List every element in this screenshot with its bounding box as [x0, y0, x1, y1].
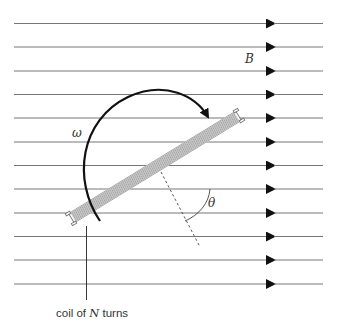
omega-label: ω: [72, 126, 82, 140]
coil-in-field-diagram: B ω θ coil of N turns: [0, 0, 338, 327]
coil-normal-dashed: [161, 172, 200, 247]
theta-label: θ: [208, 196, 216, 210]
field-label-B: B: [244, 52, 254, 66]
theta-angle-arc: [185, 189, 210, 221]
coil-label: coil of N turns: [56, 306, 128, 320]
